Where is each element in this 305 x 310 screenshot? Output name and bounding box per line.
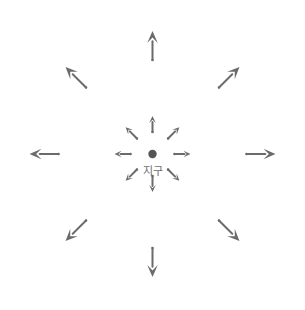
radial-field-diagram: 지구: [0, 0, 304, 310]
arrow-northwest-outer-ring: [66, 67, 88, 89]
arrow-northeast-inner-ring: [167, 127, 180, 140]
arrow-tail-dot: [85, 219, 87, 221]
arrow-west-outer-ring: [30, 149, 60, 160]
arrow-tail-dot: [129, 153, 131, 155]
arrow-shaft: [219, 220, 232, 233]
arrow-southwest-outer-ring: [66, 219, 88, 241]
arrow-west-inner-ring: [115, 151, 132, 158]
arrow-tail-dot: [218, 86, 220, 88]
center-body-label: 지구: [1, 165, 305, 178]
arrow-northeast-outer-ring: [218, 67, 240, 89]
arrow-tail-dot: [218, 219, 220, 221]
arrow-tail-dot: [173, 153, 175, 155]
arrow-south-outer-ring: [147, 247, 158, 277]
arrow-tail-dot: [151, 131, 153, 133]
arrow-shaft: [219, 74, 232, 87]
center-body-dot: [148, 150, 156, 158]
vector-field-canvas: [0, 0, 304, 310]
arrow-north-inner-ring: [149, 116, 156, 133]
arrow-tail-dot: [57, 153, 59, 155]
arrow-east-outer-ring: [245, 149, 275, 160]
arrow-shaft: [168, 131, 175, 138]
arrow-tail-dot: [151, 59, 153, 61]
arrow-tail-dot: [167, 137, 169, 139]
arrow-tail-dot: [136, 137, 138, 139]
arrow-tail-dot: [151, 247, 153, 249]
arrow-southeast-outer-ring: [218, 219, 240, 241]
arrow-east-inner-ring: [173, 151, 190, 158]
arrow-northwest-inner-ring: [126, 127, 139, 140]
arrow-tail-dot: [85, 86, 87, 88]
arrow-tail-dot: [245, 153, 247, 155]
arrow-shaft: [73, 220, 86, 233]
arrow-shaft: [73, 74, 86, 87]
arrow-north-outer-ring: [147, 31, 158, 61]
arrow-shaft: [130, 131, 137, 138]
